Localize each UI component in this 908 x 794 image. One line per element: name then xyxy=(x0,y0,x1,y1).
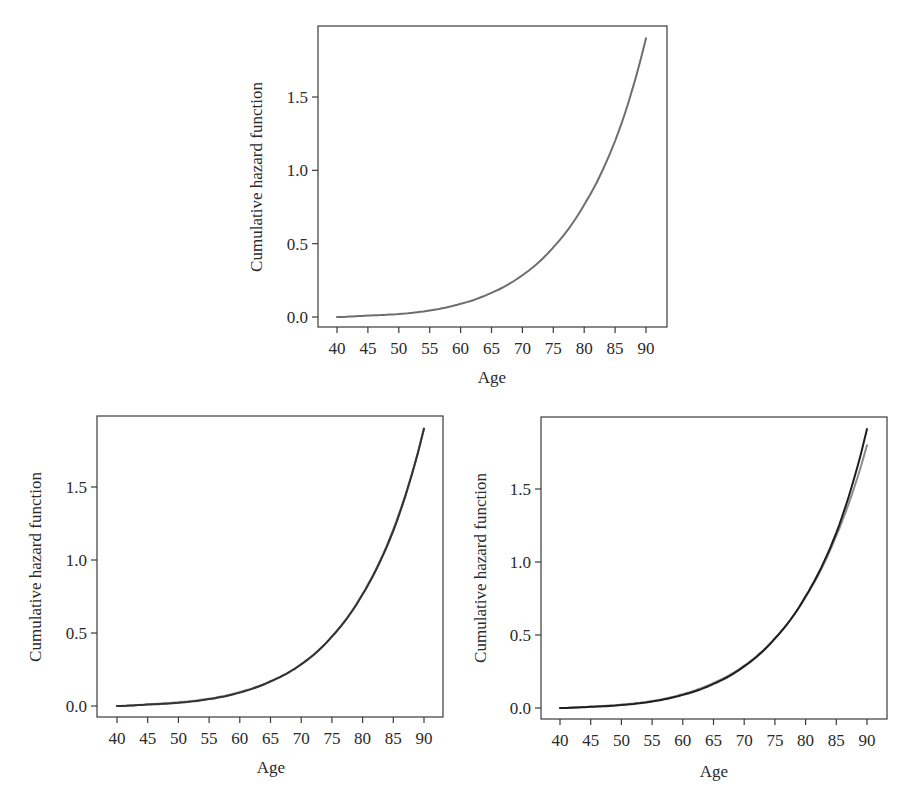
x-axis: 4045505560657075808590 xyxy=(109,717,433,748)
x-tick-label: 45 xyxy=(359,339,376,358)
x-tick-label: 70 xyxy=(514,339,531,358)
x-tick-label: 90 xyxy=(416,729,433,748)
y-tick-label: 0.5 xyxy=(510,626,531,645)
x-tick-label: 90 xyxy=(638,339,655,358)
plot-frame xyxy=(541,417,887,719)
hazard-curve xyxy=(560,445,867,708)
x-tick-label: 50 xyxy=(613,731,630,750)
x-tick-label: 45 xyxy=(582,731,599,750)
x-tick-label: 80 xyxy=(576,339,593,358)
x-axis-title: Age xyxy=(257,758,285,777)
x-tick-label: 60 xyxy=(674,731,691,750)
x-axis: 4045505560657075808590 xyxy=(552,719,876,750)
x-tick-label: 65 xyxy=(705,731,722,750)
y-tick-label: 1.0 xyxy=(66,551,87,570)
x-tick-label: 55 xyxy=(644,731,661,750)
x-tick-label: 85 xyxy=(607,339,624,358)
x-tick-label: 55 xyxy=(201,729,218,748)
x-tick-label: 50 xyxy=(170,729,187,748)
chart-panel-top: 4045505560657075808590 0.00.51.01.5 Age … xyxy=(247,26,667,387)
x-tick-label: 90 xyxy=(859,731,876,750)
x-tick-label: 75 xyxy=(323,729,340,748)
x-tick-label: 70 xyxy=(293,729,310,748)
x-axis-title: Age xyxy=(478,368,506,387)
x-tick-label: 45 xyxy=(139,729,156,748)
x-tick-label: 60 xyxy=(452,339,469,358)
curve-group xyxy=(117,429,424,706)
x-tick-label: 85 xyxy=(385,729,402,748)
hazard-curve xyxy=(337,38,646,317)
x-tick-label: 50 xyxy=(390,339,407,358)
hazard-curve xyxy=(117,429,424,706)
y-tick-label: 1.0 xyxy=(510,553,531,572)
y-axis-title: Cumulative hazard function xyxy=(26,472,45,662)
x-tick-label: 70 xyxy=(736,731,753,750)
y-tick-label: 1.5 xyxy=(510,480,531,499)
x-tick-label: 40 xyxy=(552,731,569,750)
curve-group xyxy=(560,429,867,708)
figure-canvas: 4045505560657075808590 0.00.51.01.5 Age … xyxy=(0,0,908,794)
curve-group xyxy=(337,38,646,317)
y-axis-title: Cumulative hazard function xyxy=(247,82,266,272)
hazard-curve xyxy=(560,429,867,708)
y-axis: 0.00.51.01.5 xyxy=(66,478,97,716)
y-tick-label: 1.0 xyxy=(287,161,308,180)
x-axis-title: Age xyxy=(700,762,728,781)
x-tick-label: 60 xyxy=(231,729,248,748)
y-tick-label: 1.5 xyxy=(287,88,308,107)
x-tick-label: 40 xyxy=(109,729,126,748)
plot-frame xyxy=(97,416,443,717)
y-tick-label: 0.0 xyxy=(287,308,308,327)
plot-frame xyxy=(318,26,667,327)
x-tick-label: 65 xyxy=(483,339,500,358)
y-tick-label: 0.5 xyxy=(287,235,308,254)
y-axis: 0.00.51.01.5 xyxy=(510,480,541,718)
x-tick-label: 55 xyxy=(421,339,438,358)
x-tick-label: 75 xyxy=(766,731,783,750)
x-tick-label: 65 xyxy=(262,729,279,748)
y-tick-label: 0.0 xyxy=(66,697,87,716)
y-axis-title: Cumulative hazard function xyxy=(471,473,490,663)
x-tick-label: 80 xyxy=(354,729,371,748)
x-tick-label: 40 xyxy=(329,339,346,358)
x-tick-label: 85 xyxy=(828,731,845,750)
x-tick-label: 80 xyxy=(797,731,814,750)
chart-panel-bottom-right: 4045505560657075808590 0.00.51.01.5 Age … xyxy=(471,417,887,781)
y-tick-label: 0.0 xyxy=(510,699,531,718)
chart-panel-bottom-left: 4045505560657075808590 0.00.51.01.5 Age … xyxy=(26,416,443,777)
x-tick-label: 75 xyxy=(545,339,562,358)
y-tick-label: 0.5 xyxy=(66,624,87,643)
y-tick-label: 1.5 xyxy=(66,478,87,497)
x-axis: 4045505560657075808590 xyxy=(329,327,655,358)
y-axis: 0.00.51.01.5 xyxy=(287,88,318,327)
